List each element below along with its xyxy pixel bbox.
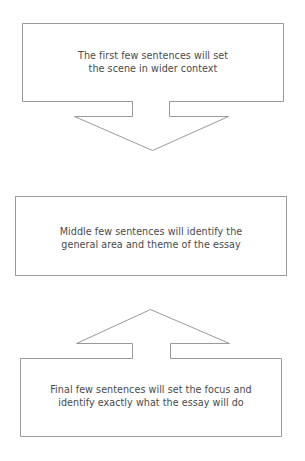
bottom-box-text: Final few sentences will set the focus a… bbox=[20, 383, 282, 409]
bottom-box-line-2: identify exactly what the essay will do bbox=[20, 396, 282, 409]
top-box-with-down-arrow bbox=[23, 24, 284, 151]
middle-box-text: Middle few sentences will identify the g… bbox=[15, 225, 287, 251]
top-box-text: The first few sentences will set the sce… bbox=[22, 49, 284, 75]
middle-box-line-1: Middle few sentences will identify the bbox=[15, 225, 287, 238]
bottom-box-with-up-arrow bbox=[21, 310, 282, 437]
bottom-box-line-1: Final few sentences will set the focus a… bbox=[20, 383, 282, 396]
middle-box-line-2: general area and theme of the essay bbox=[15, 238, 287, 251]
top-box-line-1: The first few sentences will set bbox=[22, 49, 284, 62]
top-box-line-2: the scene in wider context bbox=[22, 62, 284, 75]
